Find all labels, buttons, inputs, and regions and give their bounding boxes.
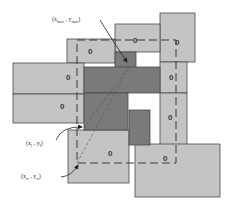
object-rect-left-lower: 0 xyxy=(13,94,84,123)
dark-rect-dark-wide xyxy=(84,67,160,93)
object-marker: 0 xyxy=(66,73,71,82)
object-marker: 0 xyxy=(60,102,65,111)
object-rect-right-col-lower: 0 xyxy=(160,93,187,145)
rect-shape xyxy=(13,94,84,123)
object-rect-left-upper: 0 xyxy=(13,63,84,94)
rect-shape xyxy=(160,93,187,145)
object-marker: 0 xyxy=(168,113,173,122)
object-rect-top-left: 0 xyxy=(67,39,115,63)
rect-shape xyxy=(115,24,160,52)
object-rect-bottom-right: 0 xyxy=(135,144,220,197)
dark-rect-dark-small-right xyxy=(129,110,150,145)
label-rr-point: (xrr , yrr) xyxy=(21,173,41,181)
object-rect-right-col-upper: 0 xyxy=(160,62,187,93)
object-marker: 0 xyxy=(88,47,93,56)
rect-shape xyxy=(13,63,84,94)
label-left-point: (xl , yl) xyxy=(26,140,43,148)
object-marker: 0 xyxy=(108,149,113,158)
object-marker: 0 xyxy=(169,73,174,82)
bounding-box-diagram: 000000000 (xmax , ymax) (xl , yl) (xrr ,… xyxy=(0,0,230,204)
rect-shape xyxy=(160,62,187,93)
object-rect-top-right-tall: 0 xyxy=(160,13,195,62)
label-max-point: (xmax , ymax) xyxy=(52,16,80,24)
rect-shape xyxy=(135,144,220,197)
object-rect-top-middle: 0 xyxy=(115,24,160,52)
object-marker: 0 xyxy=(163,154,168,163)
